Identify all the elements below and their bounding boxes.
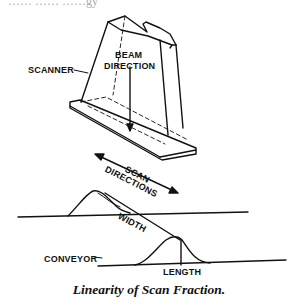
scanner-base-plate (70, 100, 196, 160)
bell-curve-lower (135, 237, 210, 265)
beam-label-line1: BEAM (115, 50, 142, 60)
conveyor-line-upper (18, 212, 248, 217)
scanner-leader-line (74, 70, 88, 73)
figure-caption: Linearity of Scan Fraction. (0, 282, 298, 298)
length-label: LENGTH (163, 267, 201, 277)
scanner-body (81, 16, 188, 144)
figure: …… …… ……gy (0, 0, 298, 306)
conveyor-label: CONVEYOR (44, 254, 97, 264)
scanner-label: SCANNER (28, 65, 74, 75)
beam-label-line2: DIRECTION (104, 61, 155, 71)
conveyor-line-lower (98, 260, 286, 266)
